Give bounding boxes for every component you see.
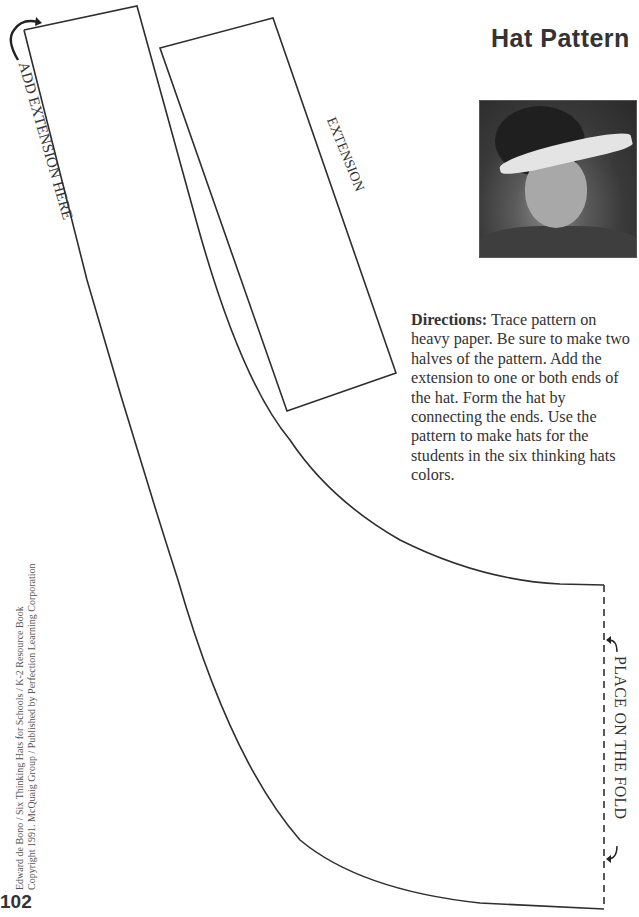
page-number: 102 (0, 891, 32, 913)
fold-arrow-top-head-icon (606, 636, 611, 644)
directions-label: Directions: (411, 311, 487, 329)
page-title: Hat Pattern (491, 24, 630, 53)
copyright-line-1: Edward de Bono / Six Thinking Hats for S… (14, 563, 26, 890)
directions-body: Trace pattern on heavy paper. Be sure to… (411, 311, 630, 484)
child-hat-photo (479, 100, 637, 258)
curl-arrow-head-icon (35, 17, 42, 26)
extension-piece-outline (160, 18, 396, 411)
copyright-notice: Edward de Bono / Six Thinking Hats for S… (14, 563, 37, 890)
fold-arrow-bottom-head-icon (606, 855, 611, 863)
curl-arrow-icon (11, 21, 38, 60)
copyright-line-2: Copyright 1991. McQuaig Group / Publishe… (26, 563, 38, 890)
directions-text: Directions: Trace pattern on heavy paper… (411, 311, 639, 486)
place-on-fold-label: PLACE ON THE FOLD (611, 656, 629, 819)
photo-shirt (480, 226, 637, 258)
